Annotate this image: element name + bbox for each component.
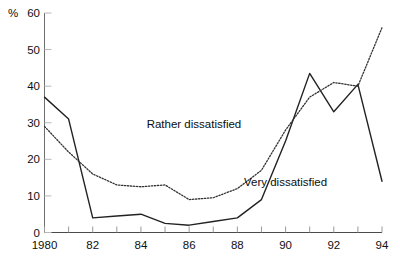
y-axis-tick-label: 40 — [0, 80, 40, 92]
y-axis-tick-label: 0 — [0, 227, 40, 239]
series-annotation-2: Very dissatisfied — [244, 176, 327, 188]
y-axis-tick-label: 30 — [0, 117, 40, 129]
x-axis-tick-label: 1980 — [32, 239, 58, 251]
y-axis-tick-label: 20 — [0, 153, 40, 165]
x-axis-tick-label: 92 — [327, 239, 340, 251]
x-axis-ticks — [45, 227, 383, 233]
chart-plot-area — [0, 0, 400, 264]
y-axis-tick-label: 60 — [0, 7, 40, 19]
x-axis-tick-label: 90 — [279, 239, 292, 251]
y-axis-tick-label: 10 — [0, 190, 40, 202]
series-line-1 — [45, 73, 383, 225]
y-axis-ticks — [45, 13, 52, 233]
x-axis-tick-label: 86 — [183, 239, 196, 251]
series-annotation-1: Rather dissatisfied — [147, 118, 242, 130]
series-line-2 — [45, 28, 383, 200]
x-axis-tick-label: 82 — [86, 239, 99, 251]
x-axis-tick-label: 94 — [376, 239, 389, 251]
x-axis-tick-label: 88 — [231, 239, 244, 251]
chart-container: % 0102030405060 198082848688909294 Rathe… — [0, 0, 400, 264]
y-axis-tick-label: 50 — [0, 44, 40, 56]
x-axis-tick-label: 84 — [135, 239, 148, 251]
